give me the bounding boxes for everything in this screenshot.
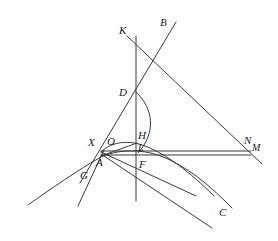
point-label-D: D [119,87,127,98]
point-label-N: N [244,135,251,146]
point-label-G: G [80,170,88,181]
point-label-A: A [96,157,103,168]
point-label-X: X [88,137,95,148]
geometry-figure: K B D X O H L A F G N M C [0,0,278,241]
point-label-M: M [252,143,260,153]
figure-background [0,0,278,241]
point-label-K: K [119,25,126,36]
point-label-B: B [160,17,167,28]
point-label-C: C [219,207,226,218]
point-label-O: O [107,136,115,147]
geometry-canvas [0,0,278,241]
point-label-F: F [139,159,146,170]
point-label-L: L [138,143,144,153]
point-label-H: H [138,130,146,141]
